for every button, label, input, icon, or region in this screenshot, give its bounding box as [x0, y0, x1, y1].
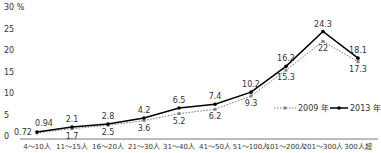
x-tick-label: 201～300人 — [303, 143, 344, 151]
series-2013-value-label: 2.1 — [66, 115, 79, 124]
series-2013-marker — [35, 130, 39, 134]
legend-2013-label: 2013 年 — [350, 103, 381, 113]
x-tick-label: 11～15人 — [56, 143, 88, 151]
series-2013-value-label: 10.2 — [242, 80, 260, 89]
y-tick-label: 15 — [4, 68, 14, 77]
series-2013-value-label: 24.3 — [314, 20, 332, 29]
y-tick-label: 0 — [4, 132, 9, 141]
y-tick-label: 30 % — [4, 3, 25, 12]
series-2013-marker — [356, 56, 360, 60]
x-tick-label: 31～40人 — [163, 143, 195, 151]
legend-2009-label: 2009 年 — [298, 103, 329, 113]
series-2013-value-label: 2.8 — [102, 112, 115, 121]
series-2009-value-label: 22 — [318, 44, 328, 53]
x-tick-label: 101～200人 — [266, 143, 307, 151]
series-2009-value-label: 3.6 — [138, 124, 151, 133]
series-2013-value-label: 7.4 — [209, 92, 222, 101]
series-2009-value-label: 2.5 — [102, 128, 115, 137]
series-2013-line — [37, 32, 358, 133]
series-2013-value-label: 6.5 — [173, 96, 186, 105]
series-2009-marker — [285, 69, 288, 72]
x-tick-label: 16～20人 — [92, 143, 124, 151]
x-tick-label: 300人超 — [344, 142, 371, 151]
chart-canvas: 051015202530 %4～10人11～15人16～20人21～30人31～… — [0, 0, 381, 153]
series-2009-value-label: 1.7 — [66, 132, 79, 141]
legend-2013-marker-icon — [337, 106, 341, 110]
series-2013-marker — [70, 125, 74, 129]
series-2009-marker — [357, 60, 360, 63]
series-2013-marker — [106, 122, 110, 126]
series-2013-value-label: 4.2 — [138, 106, 151, 115]
x-tick-label: 51～100人 — [233, 143, 269, 151]
series-2009-value-label: 17.3 — [349, 65, 367, 74]
series-2009-marker — [250, 95, 253, 98]
series-2009-marker — [214, 108, 217, 111]
series-2009-value-label: 15.3 — [277, 73, 295, 82]
series-2013-value-label: 0.94 — [35, 119, 53, 128]
series-2009-line — [37, 41, 358, 132]
series-2009-value-label: 5.2 — [173, 117, 186, 126]
x-tick-label: 21～30人 — [128, 143, 160, 151]
y-tick-label: 25 — [4, 25, 14, 34]
series-2013-marker — [284, 65, 288, 69]
series-2013-marker — [249, 90, 253, 94]
series-2013-value-label: 18.1 — [349, 46, 367, 55]
series-2009-marker — [178, 112, 181, 115]
x-tick-label: 41～50人 — [199, 143, 231, 151]
series-2013-marker — [177, 106, 181, 110]
y-tick-label: 10 — [4, 89, 14, 98]
line-chart: 051015202530 %4～10人11～15人16～20人21～30人31～… — [0, 0, 381, 153]
series-2009-value-label: 0.72 — [14, 128, 32, 137]
y-tick-label: 20 — [4, 46, 14, 55]
series-2013-marker — [321, 30, 325, 34]
legend-2009-marker-icon — [284, 107, 287, 110]
series-2013-value-label: 16.2 — [277, 54, 295, 63]
series-2009-marker — [322, 40, 325, 43]
series-2009-value-label: 9.3 — [245, 99, 258, 108]
series-2013-marker — [213, 102, 217, 106]
y-tick-label: 5 — [4, 111, 9, 120]
series-2013-marker — [142, 116, 146, 120]
series-2009-value-label: 6.2 — [209, 112, 222, 121]
x-tick-label: 4～10人 — [23, 143, 50, 151]
